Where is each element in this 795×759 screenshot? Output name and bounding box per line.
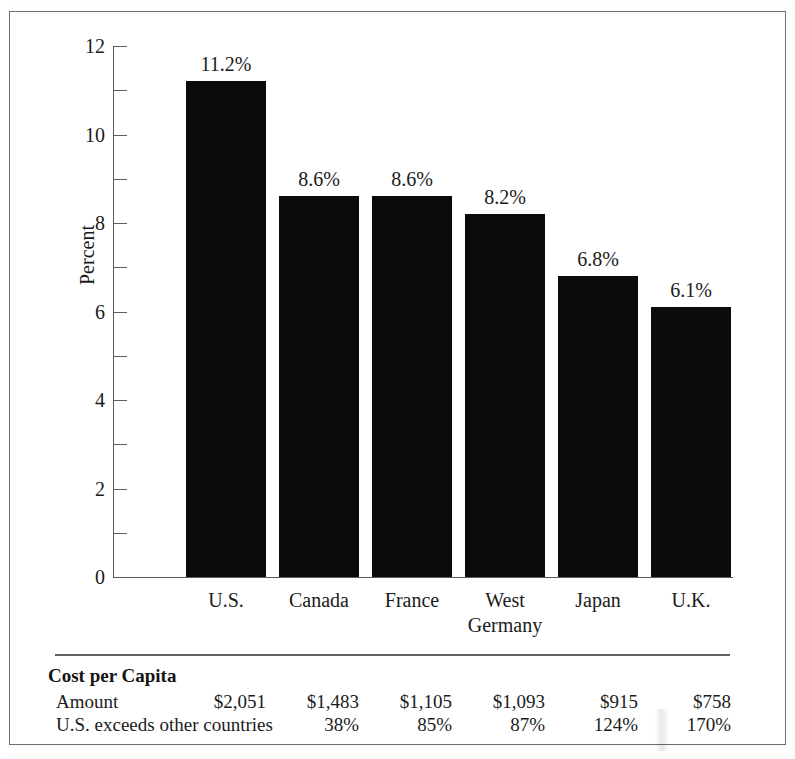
y-axis-minor-tick — [114, 179, 127, 180]
table-cell: 170% — [639, 714, 731, 736]
x-axis-category-labels: U.S.CanadaFranceWestGermanyJapanU.K. — [113, 588, 733, 644]
table-row-label: Amount — [56, 691, 118, 713]
plot-area: 024681012 11.2%8.6%8.6%8.2%6.8%6.1% — [113, 46, 733, 577]
y-axis-tick-label: 2 — [71, 479, 105, 499]
bar-value-label: 6.8% — [543, 249, 653, 269]
category-label-line1: U.K. — [637, 588, 745, 613]
table-cell: 87% — [453, 714, 545, 736]
bar — [651, 307, 731, 577]
bar — [186, 81, 266, 577]
y-axis-major-tick — [114, 400, 127, 401]
y-axis-tick-label: 4 — [71, 390, 105, 410]
bar-value-label: 8.2% — [450, 187, 560, 207]
bar — [558, 276, 638, 577]
y-axis-major-tick — [114, 577, 127, 578]
table-cell: $1,483 — [267, 691, 359, 713]
x-axis-category-label: U.S. — [172, 588, 280, 613]
y-axis-minor-tick — [114, 533, 127, 534]
y-axis-tick-labels: 024681012 — [65, 46, 105, 577]
table-cell: $1,105 — [360, 691, 452, 713]
table-cell: 38% — [267, 714, 359, 736]
y-axis-major-tick — [114, 135, 127, 136]
category-label-line1: Japan — [544, 588, 652, 613]
figure-frame: Percent 024681012 11.2%8.6%8.6%8.2%6.8%6… — [9, 11, 786, 745]
bar — [372, 196, 452, 577]
x-axis-line — [113, 577, 733, 578]
figure-container: Percent 024681012 11.2%8.6%8.6%8.2%6.8%6… — [0, 0, 795, 759]
y-axis-minor-tick — [114, 444, 127, 445]
category-label-line2: Germany — [451, 613, 559, 638]
y-axis-major-tick — [114, 46, 127, 47]
table-cell: $2,051 — [174, 691, 266, 713]
y-axis-minor-tick — [114, 267, 127, 268]
bar-value-label: 6.1% — [636, 280, 746, 300]
bar — [279, 196, 359, 577]
y-axis-tick-label: 12 — [71, 36, 105, 56]
scan-edge — [0, 0, 9, 759]
x-axis-category-label: WestGermany — [451, 588, 559, 638]
table-cell: 124% — [546, 714, 638, 736]
category-label-line1: Canada — [265, 588, 373, 613]
bar-value-label: 11.2% — [171, 54, 281, 74]
y-axis-minor-tick — [114, 356, 127, 357]
table-title: Cost per Capita — [48, 665, 176, 687]
table-cell: $758 — [639, 691, 731, 713]
table-row-label: U.S. exceeds other countries — [56, 714, 273, 736]
table-cell: 85% — [360, 714, 452, 736]
y-axis-minor-tick — [114, 90, 127, 91]
table-cell: $915 — [546, 691, 638, 713]
category-label-line1: France — [358, 588, 466, 613]
y-axis-tick-label: 0 — [71, 567, 105, 587]
table-cell: $1,093 — [453, 691, 545, 713]
category-label-line1: U.S. — [172, 588, 280, 613]
x-axis-category-label: U.K. — [637, 588, 745, 613]
x-axis-category-label: Canada — [265, 588, 373, 613]
y-axis-major-tick — [114, 489, 127, 490]
category-label-line1: West — [451, 588, 559, 613]
y-axis-tick-label: 8 — [71, 213, 105, 233]
table-top-rule — [55, 654, 730, 656]
x-axis-category-label: France — [358, 588, 466, 613]
y-axis-tick-label: 10 — [71, 125, 105, 145]
bar — [465, 214, 545, 577]
y-axis-major-tick — [114, 223, 127, 224]
x-axis-category-label: Japan — [544, 588, 652, 613]
y-axis-tick-label: 6 — [71, 302, 105, 322]
y-axis-major-tick — [114, 312, 127, 313]
